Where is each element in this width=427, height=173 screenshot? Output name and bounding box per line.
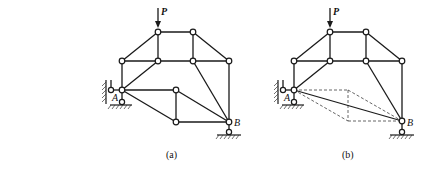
truss-diagram: P A (0, 0, 427, 173)
load-label-p: P (161, 6, 168, 17)
support-label-a-b: A (283, 92, 291, 103)
support-label-a: A (111, 92, 119, 103)
load-arrow-a: P (155, 6, 168, 28)
caption-b: (b) (342, 149, 354, 161)
caption-a: (a) (166, 149, 177, 161)
load-arrow-b: P (327, 6, 340, 28)
load-label-p-b: P (333, 6, 340, 17)
nodes-b (291, 29, 405, 124)
support-label-b: B (234, 117, 240, 128)
truss-figure-b: P A (274, 6, 414, 161)
support-a-b: A (274, 80, 304, 109)
truss-figure-a: P A (102, 6, 241, 161)
support-label-b-b: B (407, 117, 413, 128)
support-a-left: A (102, 80, 132, 109)
members-a (122, 32, 229, 122)
